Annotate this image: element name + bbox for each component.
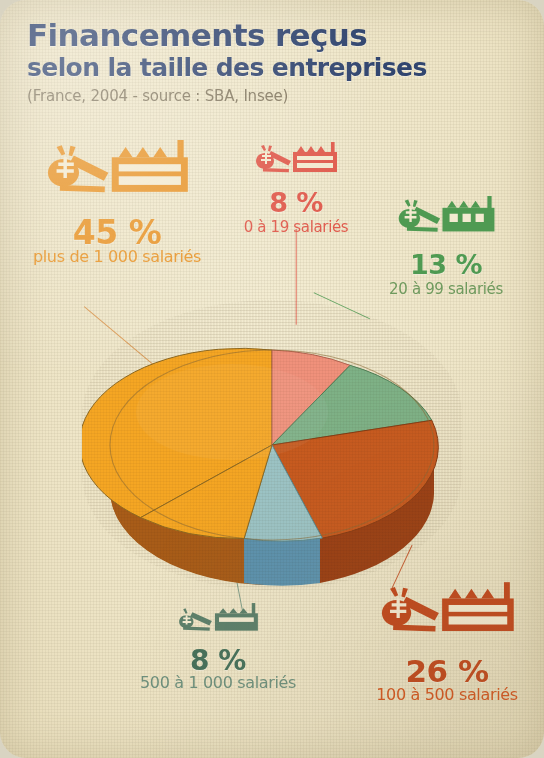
callout-percent: 8 % <box>232 189 360 217</box>
callout-salaries-plus-1000: 45 % plus de 1 000 salariés <box>12 140 222 266</box>
moneybag-factory-icon <box>394 196 498 248</box>
callout-salaries-500-1000: 8 % 500 à 1 000 salariés <box>122 600 314 692</box>
callout-percent: 8 % <box>122 648 314 673</box>
pie-chart <box>82 300 462 590</box>
callout-label: 20 à 99 salariés <box>356 280 536 298</box>
header: Financements reçus selon la taille des e… <box>27 18 497 105</box>
moneybag-factory-icon <box>42 140 192 216</box>
callout-label: 0 à 19 salariés <box>232 218 360 236</box>
callout-salaries-100-500: 26 % 100 à 500 salariés <box>352 582 542 704</box>
callout-percent: 26 % <box>352 657 542 685</box>
callout-salaries-0-19: 8 % 0 à 19 salariés <box>232 142 360 236</box>
page-title-line2: selon la taille des entreprises <box>27 53 497 82</box>
callout-percent: 45 % <box>12 219 222 247</box>
callout-label: 500 à 1 000 salariés <box>122 674 314 692</box>
source-note: (France, 2004 - source : SBA, Insee) <box>27 87 497 105</box>
moneybag-factory-icon <box>174 600 262 645</box>
infographic-page: Financements reçus selon la taille des e… <box>0 0 544 758</box>
moneybag-factory-icon <box>377 582 517 654</box>
callout-label: plus de 1 000 salariés <box>12 248 222 266</box>
callout-label: 100 à 500 salariés <box>352 686 542 704</box>
pie-highlight <box>136 364 328 460</box>
pie-chart-svg <box>82 300 462 590</box>
moneybag-factory-icon <box>253 142 339 186</box>
callout-salaries-20-99: 13 % 20 à 99 salariés <box>356 196 536 298</box>
callout-percent: 13 % <box>356 251 536 279</box>
page-title-line1: Financements reçus <box>27 18 497 52</box>
